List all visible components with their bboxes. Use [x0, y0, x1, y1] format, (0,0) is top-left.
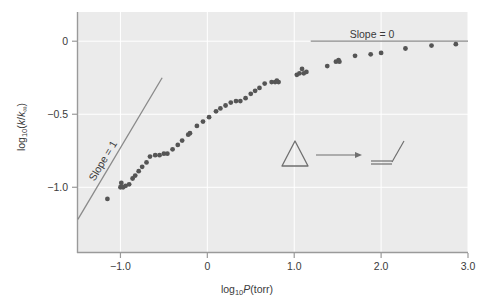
data-point: [337, 59, 342, 64]
y-tick-label: 0: [62, 35, 68, 47]
data-point: [105, 197, 110, 202]
data-point: [144, 160, 149, 165]
data-point: [368, 52, 373, 57]
x-tick-labels: −1.001.02.03.0: [110, 260, 475, 272]
data-point: [276, 80, 281, 85]
data-point: [201, 119, 206, 124]
data-point: [175, 143, 180, 148]
data-point: [353, 53, 358, 58]
data-point: [429, 43, 434, 48]
x-axis-label: log10P(torr): [0, 283, 482, 297]
data-point: [223, 103, 228, 108]
data-point: [170, 147, 175, 152]
data-point: [238, 99, 243, 104]
data-point: [243, 96, 248, 101]
data-point: [297, 71, 302, 76]
data-point: [195, 124, 200, 129]
data-point: [207, 115, 212, 120]
x-tick-label: 3.0: [461, 260, 476, 272]
data-point: [262, 81, 267, 86]
data-point: [257, 86, 262, 91]
y-tick-labels: 0−0.5−1.0: [47, 35, 68, 193]
data-point: [136, 169, 141, 174]
data-point: [234, 99, 239, 104]
data-point: [253, 88, 258, 93]
data-point: [304, 69, 309, 74]
data-point: [228, 100, 233, 105]
data-point: [165, 151, 170, 156]
data-point: [325, 64, 330, 69]
x-tick-label: 1.0: [287, 260, 302, 272]
plot-panel: [77, 12, 468, 253]
data-point: [153, 153, 158, 158]
data-point: [248, 91, 253, 96]
data-point: [157, 153, 162, 158]
x-tick-label: 2.0: [374, 260, 389, 272]
x-tick-label: −1.0: [110, 260, 131, 272]
data-point: [300, 67, 305, 72]
figure-canvas: Slope = 1 Slope = 0 −1.001.02.03.0 0−0.5…: [0, 0, 482, 308]
data-point: [188, 131, 193, 136]
data-point: [148, 154, 153, 159]
data-point: [453, 42, 458, 47]
data-point: [218, 106, 223, 111]
y-axis-label: log10(k/k∞): [15, 67, 29, 187]
x-tick-label: 0: [204, 260, 210, 272]
data-point: [127, 182, 132, 187]
slope-0-annotation: Slope = 0: [350, 28, 395, 40]
scatter-plot: Slope = 1 Slope = 0 −1.001.02.03.0 0−0.5…: [0, 0, 482, 308]
data-point: [133, 173, 138, 178]
y-tick-label: −1.0: [47, 181, 68, 193]
data-point: [214, 109, 219, 114]
data-point: [180, 138, 185, 143]
data-point: [403, 46, 408, 51]
y-tick-label: −0.5: [47, 108, 68, 120]
data-point: [379, 50, 384, 55]
data-point: [119, 180, 124, 185]
data-point: [140, 164, 145, 169]
